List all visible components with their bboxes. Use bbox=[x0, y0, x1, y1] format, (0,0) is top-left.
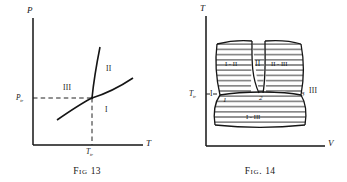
caption-prefix: Fig bbox=[73, 166, 87, 176]
region-II-label: II bbox=[106, 65, 111, 73]
region-III-label: III bbox=[309, 87, 317, 95]
t-tr-tick-label: Ttr bbox=[189, 90, 196, 98]
boundary-curve-i-iii bbox=[57, 98, 92, 120]
figure-page: P T Ptr Ttr I II III Fig 13 bbox=[0, 0, 347, 182]
x-axis-label: V bbox=[328, 139, 334, 148]
boundary-curve-ii-iii bbox=[92, 47, 100, 98]
y-axis-label: T bbox=[200, 4, 205, 13]
caption-number: 14 bbox=[265, 166, 275, 176]
point-1-label: 1 bbox=[223, 97, 227, 104]
x-axis-label: T bbox=[146, 139, 151, 148]
triple-point-marker bbox=[91, 97, 93, 99]
point-3-label: 3 bbox=[301, 91, 305, 98]
region-III-label: III bbox=[63, 84, 71, 92]
region-I-label: I bbox=[105, 106, 108, 114]
lower-bottom-edge bbox=[215, 125, 305, 127]
figure-13-caption: Fig 13 bbox=[0, 166, 174, 176]
caption-prefix: Fig. bbox=[245, 166, 262, 176]
figure-14-plot bbox=[173, 0, 347, 182]
region-I-III-label: I - III bbox=[246, 114, 260, 121]
boundary-curve-i-ii bbox=[92, 78, 133, 98]
figure-14-caption: Fig. 14 bbox=[173, 166, 347, 176]
t-tr-sub: tr bbox=[90, 152, 93, 157]
y-axis-label: P bbox=[27, 6, 33, 15]
region-I-II-label: I - II bbox=[225, 61, 237, 68]
p-tr-tick-label: Ptr bbox=[16, 94, 24, 102]
region-I-label: I bbox=[210, 90, 213, 98]
region-II-III-label: II - III bbox=[271, 61, 287, 68]
caption-number: 13 bbox=[91, 166, 101, 176]
region-II-label: II bbox=[255, 60, 260, 68]
p-tr-sub: tr bbox=[20, 98, 23, 103]
figure-13: P T Ptr Ttr I II III Fig 13 bbox=[0, 0, 174, 182]
t-tr-tick-label: Ttr bbox=[86, 148, 93, 156]
figure-14: T V Ttr I II III I - II II - III I - III… bbox=[173, 0, 347, 182]
t-tr-sub: tr bbox=[193, 94, 196, 99]
point-2-label: 2 bbox=[259, 95, 263, 102]
